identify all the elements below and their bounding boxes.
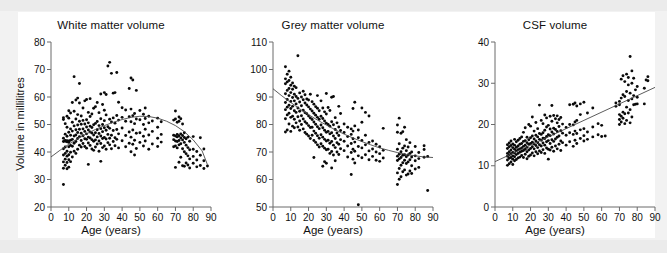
chart-grey-matter-volume: Grey matter volume 506070809010011001020… bbox=[222, 0, 444, 253]
svg-text:110: 110 bbox=[251, 37, 267, 48]
plot-area-csf: 0102030400102030405060708090 bbox=[444, 0, 666, 253]
svg-text:80: 80 bbox=[410, 212, 422, 223]
svg-text:60: 60 bbox=[152, 212, 164, 223]
svg-text:30: 30 bbox=[321, 212, 333, 223]
svg-text:20: 20 bbox=[81, 212, 93, 223]
svg-text:0: 0 bbox=[492, 212, 498, 223]
svg-text:60: 60 bbox=[256, 174, 268, 185]
svg-text:20: 20 bbox=[525, 212, 537, 223]
svg-text:70: 70 bbox=[392, 212, 404, 223]
svg-text:80: 80 bbox=[188, 212, 200, 223]
svg-text:40: 40 bbox=[478, 37, 490, 48]
svg-text:80: 80 bbox=[632, 212, 644, 223]
svg-text:90: 90 bbox=[205, 212, 217, 223]
svg-text:60: 60 bbox=[374, 212, 386, 223]
svg-text:0: 0 bbox=[48, 212, 54, 223]
svg-text:10: 10 bbox=[285, 212, 297, 223]
svg-text:70: 70 bbox=[170, 212, 182, 223]
svg-text:90: 90 bbox=[256, 92, 268, 103]
plot-area-white-matter: 203040506070800102030405060708090 bbox=[0, 0, 222, 253]
figure-root: White matter volume Volume in millilitre… bbox=[0, 0, 667, 253]
svg-text:10: 10 bbox=[63, 212, 75, 223]
chart-white-matter-volume: White matter volume Volume in millilitre… bbox=[0, 0, 222, 253]
svg-text:30: 30 bbox=[99, 212, 111, 223]
svg-text:10: 10 bbox=[478, 160, 490, 171]
svg-text:30: 30 bbox=[543, 212, 555, 223]
svg-text:50: 50 bbox=[256, 202, 268, 213]
svg-text:50: 50 bbox=[134, 212, 146, 223]
svg-text:70: 70 bbox=[34, 64, 46, 75]
svg-text:70: 70 bbox=[614, 212, 626, 223]
svg-text:100: 100 bbox=[250, 64, 267, 75]
x-axis-label-grey-matter: Age (years) bbox=[222, 224, 444, 236]
svg-text:50: 50 bbox=[578, 212, 590, 223]
svg-text:30: 30 bbox=[34, 174, 46, 185]
svg-text:40: 40 bbox=[117, 212, 129, 223]
svg-text:20: 20 bbox=[34, 202, 46, 213]
svg-text:50: 50 bbox=[356, 212, 368, 223]
svg-text:0: 0 bbox=[483, 202, 489, 213]
svg-text:90: 90 bbox=[427, 212, 439, 223]
svg-text:40: 40 bbox=[339, 212, 351, 223]
svg-text:80: 80 bbox=[256, 119, 268, 130]
svg-text:90: 90 bbox=[649, 212, 661, 223]
svg-text:40: 40 bbox=[561, 212, 573, 223]
x-axis-label-white-matter: Age (years) bbox=[0, 224, 222, 236]
svg-text:70: 70 bbox=[256, 147, 268, 158]
svg-text:20: 20 bbox=[478, 119, 490, 130]
svg-text:20: 20 bbox=[303, 212, 315, 223]
svg-text:30: 30 bbox=[478, 78, 490, 89]
x-axis-label-csf: Age (years) bbox=[444, 224, 666, 236]
chart-csf-volume: CSF volume 0102030400102030405060708090 … bbox=[444, 0, 666, 253]
svg-text:60: 60 bbox=[596, 212, 608, 223]
svg-text:80: 80 bbox=[34, 37, 46, 48]
svg-text:10: 10 bbox=[507, 212, 519, 223]
svg-text:0: 0 bbox=[270, 212, 276, 223]
plot-area-grey-matter: 50607080901001100102030405060708090 bbox=[222, 0, 444, 253]
svg-text:40: 40 bbox=[34, 147, 46, 158]
svg-text:50: 50 bbox=[34, 119, 46, 130]
svg-text:60: 60 bbox=[34, 92, 46, 103]
